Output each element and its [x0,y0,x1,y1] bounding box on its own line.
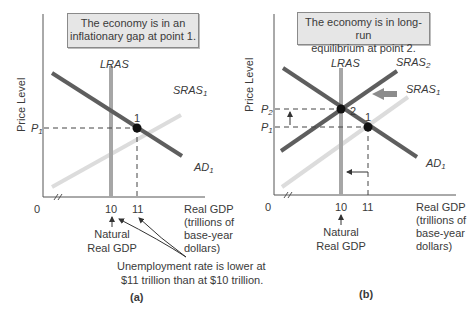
svg-text:Natural: Natural [94,228,129,240]
panel-b: 2 1 LRAS SRAS2 SRAS1 AD1 P2 P1 Price Lev… [243,14,467,300]
lras-label: LRAS [100,58,129,70]
tick-10: 10 [105,203,117,215]
p1-tick-label: P1 [261,121,273,135]
svg-text:Unemployment rate is lower at: Unemployment rate is lower at [117,260,266,272]
y-axis-label: Price Level [15,78,27,132]
svg-text:(trillions of: (trillions of [184,216,235,228]
natural-gdp-label: Natural Real GDP [87,228,137,254]
callout-line: equilibrium at point 2. [298,42,429,55]
natural-gdp-label: Natural Real GDP [316,226,366,252]
lras-label: LRAS [331,57,360,69]
p1-tick-label: P1 [31,122,43,136]
point-1-label: 1 [134,112,140,124]
unemployment-note: Unemployment rate is lower at $11 trilli… [117,260,266,286]
tick-11: 11 [362,201,373,213]
arrow-to-11-icon [139,218,186,257]
point-2-label: 2 [350,105,356,117]
p2-tick-label: P2 [261,103,273,117]
callout-line: inflationary gap at point 1. [68,30,198,43]
svg-text:Real GDP: Real GDP [316,240,366,252]
sras2-label: SRAS2 [396,56,431,70]
callout-line: The economy is in an [68,17,198,30]
sras1-label: SRAS1 [406,83,440,97]
svg-text:Real GDP: Real GDP [416,201,466,213]
svg-text:(trillions of: (trillions of [416,214,467,226]
svg-text:$11 trillion than at $10 trill: $11 trillion than at $10 trillion. [121,274,263,286]
equilibrium-point-1 [364,123,373,132]
callout-box-b: The economy is in long-run equilibrium a… [297,12,430,45]
x-axis-label: Real GDP (trillions of base-year dollars… [416,201,467,252]
panel-a: 1 LRAS SRAS1 AD1 P1 Price Level 0 10 11 … [15,14,266,303]
ad1-label: AD1 [425,157,446,171]
svg-text:Real GDP: Real GDP [87,242,137,254]
svg-text:dollars): dollars) [416,240,452,252]
panel-b-caption: (b) [359,288,373,300]
panel-a-caption: (a) [130,291,144,303]
sras1-label: SRAS1 [173,84,207,98]
tick-11: 11 [132,203,143,215]
ad1-curve [52,73,182,156]
sras-shift-arrow-icon [372,88,397,100]
svg-text:dollars): dollars) [184,242,220,254]
callout-line: The economy is in long-run [298,16,429,42]
equilibrium-point-2 [337,105,346,114]
tick-10: 10 [335,201,347,213]
svg-text:base-year: base-year [416,227,465,239]
origin-label: 0 [265,201,271,213]
origin-label: 0 [34,203,40,215]
svg-text:Real GDP: Real GDP [184,203,234,215]
callout-box-a: The economy is in an inflationary gap at… [67,13,199,48]
svg-text:Natural: Natural [323,226,358,238]
svg-text:base-year: base-year [184,229,233,241]
y-axis-label: Price Level [243,58,255,112]
x-axis-label: Real GDP (trillions of base-year dollars… [184,203,235,254]
equilibrium-point-1 [133,124,142,133]
point-1-label: 1 [365,111,371,123]
ad1-label: AD1 [193,161,214,175]
sras1-curve [52,115,181,187]
